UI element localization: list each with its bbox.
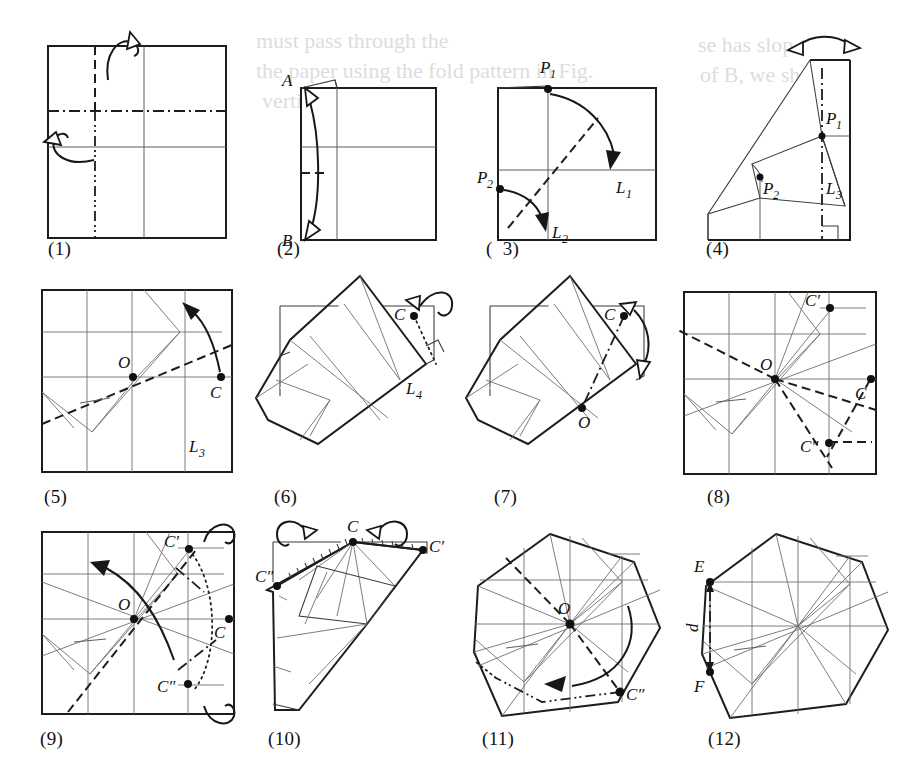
label-C: C	[855, 384, 867, 403]
caption-panel-9: (9)	[40, 728, 63, 750]
caption-panel-7: (7)	[494, 486, 517, 508]
point-C	[620, 312, 628, 320]
caption-panel-2: (2)	[277, 238, 300, 260]
point-E	[706, 578, 714, 586]
point-C-dprime	[273, 582, 281, 590]
label-C-dprime: C″	[800, 437, 819, 456]
label-C: C	[604, 305, 616, 324]
svg-text:3: 3	[198, 446, 205, 460]
point-C-prime	[419, 546, 427, 554]
label-C: C	[210, 383, 222, 402]
svg-text:1: 1	[626, 187, 632, 201]
caption-panel-6: (6)	[274, 486, 297, 508]
caption-panel-8: (8)	[707, 486, 730, 508]
svg-text:P: P	[539, 58, 550, 77]
point-O	[771, 375, 779, 383]
label-O: O	[558, 599, 570, 618]
point-C-prime	[185, 545, 193, 553]
label-C-prime: C′	[164, 532, 179, 551]
label-E: E	[693, 557, 705, 576]
caption-panel-1: (1)	[48, 238, 71, 260]
label-C: C	[214, 623, 226, 642]
label-P2: P 2	[476, 168, 493, 191]
label-C: C	[394, 305, 406, 324]
svg-text:L: L	[188, 437, 198, 456]
point-O	[129, 373, 137, 381]
point-P1	[544, 85, 552, 93]
point-O	[578, 404, 586, 412]
point-F	[706, 668, 714, 676]
svg-text:L: L	[825, 179, 835, 198]
panel-7: C O	[458, 268, 673, 498]
label-C-dprime: C″	[157, 677, 176, 696]
svg-text:3: 3	[835, 188, 842, 202]
svg-text:4: 4	[416, 388, 422, 402]
label-C: C	[347, 517, 359, 536]
panel-9: O C′ C C″	[28, 520, 253, 735]
label-A: A	[281, 71, 293, 90]
panel-5: O C L 3	[32, 280, 252, 495]
caption-panel-12: (12)	[708, 728, 741, 750]
label-C-dprime: C″	[626, 685, 645, 704]
panel-10: C C′ C″	[255, 520, 465, 735]
panel-12: E F d	[686, 520, 911, 735]
caption-panel-3: ( 3)	[486, 238, 519, 260]
right-angle-mark	[426, 340, 444, 352]
panel-1	[30, 18, 260, 258]
label-O: O	[118, 595, 130, 614]
label-C-prime: C′	[429, 537, 444, 556]
caption-panel-10: (10)	[268, 728, 301, 750]
label-L4: L 4	[405, 379, 422, 402]
svg-text:1: 1	[836, 118, 842, 132]
svg-text:P: P	[762, 179, 773, 198]
panel-8: O C′ C C″	[672, 282, 892, 497]
svg-text:2: 2	[562, 232, 568, 246]
origami-figure: se has slop of B, we shall p must pass t…	[0, 0, 924, 782]
label-C-dprime: C″	[255, 567, 274, 586]
svg-text:P: P	[476, 168, 487, 187]
point-C-dprime	[616, 688, 625, 697]
label-O: O	[578, 413, 590, 432]
svg-text:P: P	[825, 109, 836, 128]
caption-panel-4: (4)	[706, 238, 729, 260]
point-C	[225, 615, 233, 623]
panel-11: O C″	[462, 520, 682, 735]
svg-text:1: 1	[550, 67, 556, 81]
svg-text:L: L	[615, 178, 625, 197]
svg-text:L: L	[405, 379, 415, 398]
panel-6: C L 4	[248, 268, 463, 498]
flap-top	[301, 80, 337, 88]
point-O	[566, 620, 575, 629]
label-O: O	[118, 353, 130, 372]
point-P2	[496, 185, 504, 193]
label-C-prime: C′	[805, 291, 820, 310]
svg-text:2: 2	[773, 188, 779, 202]
point-C-prime	[826, 304, 834, 312]
point-C	[217, 373, 225, 381]
point-P1	[819, 133, 826, 140]
label-O: O	[760, 355, 772, 374]
point-O	[130, 615, 138, 623]
point-C-dprime	[825, 439, 833, 447]
panel-2: A B	[275, 18, 460, 258]
svg-text:L: L	[551, 223, 561, 242]
caption-panel-5: (5)	[44, 486, 67, 508]
panel-4: P 1 P 2 L 3	[700, 18, 900, 258]
point-C-dprime	[184, 680, 192, 688]
point-C	[410, 312, 418, 320]
caption-panel-11: (11)	[482, 728, 514, 750]
label-F: F	[693, 677, 705, 696]
point-C	[349, 538, 357, 546]
point-C	[867, 375, 875, 383]
label-d: d	[683, 623, 702, 632]
panel-3: P 1 P 2 L 1 L 2	[480, 18, 680, 258]
label-P1: P 1	[539, 58, 556, 81]
fold-arrow-top-arc	[788, 37, 860, 55]
fold-arrow-loop	[406, 292, 452, 315]
svg-text:2: 2	[487, 177, 493, 191]
